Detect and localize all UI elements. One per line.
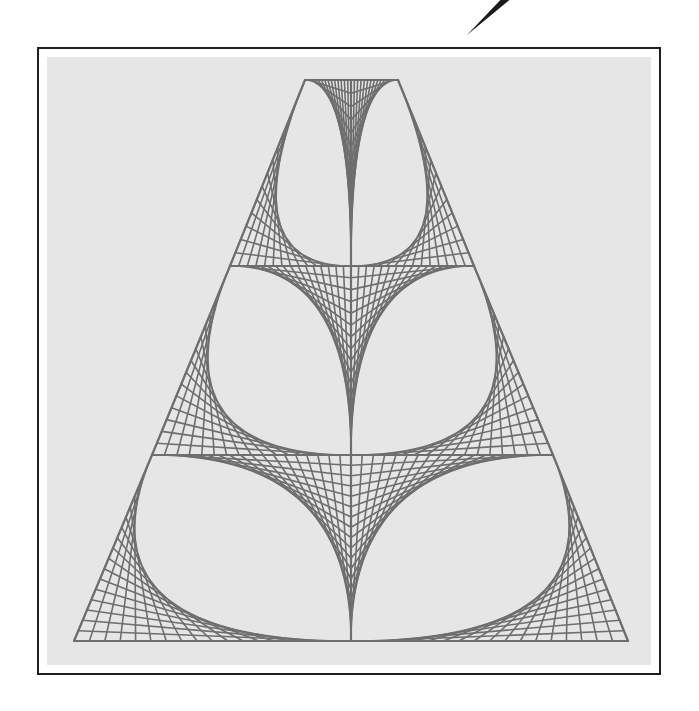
string-art-figure xyxy=(0,0,699,711)
string-art-drawing xyxy=(0,0,699,711)
tier-outlines xyxy=(74,80,628,641)
pen-icon xyxy=(467,0,512,35)
